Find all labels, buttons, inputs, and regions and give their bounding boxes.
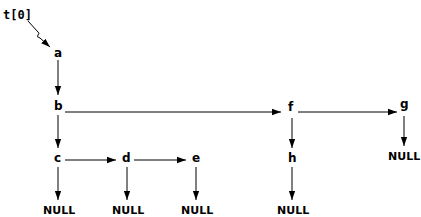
- null-d: NULL: [112, 204, 144, 217]
- node-d: d: [122, 151, 131, 165]
- tree-diagram: t[0] a b c d e f g h NULL NULL NULL NULL…: [0, 0, 421, 217]
- node-a: a: [54, 46, 62, 60]
- null-h: NULL: [277, 204, 309, 217]
- null-g: NULL: [388, 150, 420, 163]
- node-e: e: [192, 151, 200, 165]
- node-c: c: [54, 151, 61, 165]
- null-e: NULL: [181, 204, 213, 217]
- pointer-arrow: [28, 21, 50, 47]
- null-c: NULL: [43, 204, 75, 217]
- node-g: g: [400, 97, 409, 111]
- node-h: h: [288, 151, 297, 165]
- node-b: b: [54, 99, 63, 113]
- node-f: f: [288, 100, 294, 114]
- pointer-label: t[0]: [3, 8, 32, 22]
